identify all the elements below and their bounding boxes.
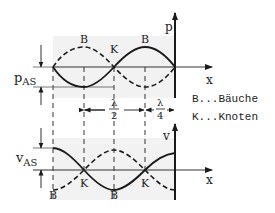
legend-item-antinodes: B...Bäuche xyxy=(192,93,258,105)
half-wavelength-numerator: λ xyxy=(111,97,118,108)
lower-x-axis-label: x xyxy=(206,173,213,187)
lower-label-node-2: K xyxy=(141,177,150,190)
lower-label-antinode-1: B xyxy=(49,189,57,202)
lower-y-axis-label: v xyxy=(162,129,170,143)
upper-x-axis-label: x xyxy=(206,73,213,87)
standing-wave-diagram: pAS p x B K B λ 2 λ 4 vA xyxy=(0,0,275,213)
upper-label-node-1: K xyxy=(110,43,119,56)
upper-label-antinode-1: B xyxy=(80,33,88,46)
legend: B...Bäuche K...Knoten xyxy=(192,93,258,123)
half-wavelength-denominator: 2 xyxy=(111,110,117,121)
lower-amplitude-label: vAS xyxy=(15,150,38,168)
quarter-wavelength-denominator: 4 xyxy=(157,110,163,121)
upper-label-antinode-2: B xyxy=(141,33,149,46)
upper-y-axis-label: p xyxy=(165,20,173,34)
wavelength-dimensions: λ 2 λ 4 xyxy=(84,97,174,121)
upper-amplitude-label: pAS xyxy=(14,70,37,87)
lower-label-antinode-2: B xyxy=(110,189,118,202)
lower-label-node-1: K xyxy=(80,177,89,190)
legend-item-nodes: K...Knoten xyxy=(192,111,258,123)
quarter-wavelength-numerator: λ xyxy=(157,97,164,108)
